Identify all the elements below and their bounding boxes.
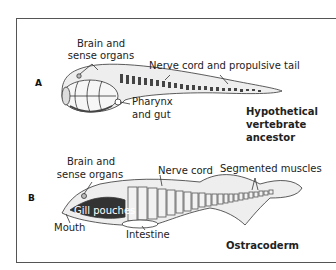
label-pharynx-line1: Pharynx	[132, 96, 173, 107]
label-intestine: Intestine	[126, 229, 170, 240]
caption-a-line2: vertebrate	[246, 119, 306, 130]
label-segmented-muscles: Segmented muscles	[220, 163, 322, 174]
label-brain-line1-b: Brain and	[60, 156, 122, 167]
ostracoderm-drawing	[62, 175, 302, 230]
label-pharynx-line2: and gut	[132, 109, 171, 120]
caption-b: Ostracoderm	[226, 240, 299, 251]
caption-a-line3: ancestor	[246, 132, 295, 143]
label-nerve-cord: Nerve cord	[158, 165, 213, 176]
panel-letter-a: A	[35, 78, 42, 88]
label-mouth: Mouth	[54, 222, 85, 233]
label-nerve-cord-tail: Nerve cord and propulsive tail	[149, 60, 300, 71]
label-brain-line2-a: sense organs	[64, 50, 138, 61]
label-gill-pouches: Gill pouches	[74, 205, 135, 216]
label-brain-line1-a: Brain and	[70, 38, 132, 49]
label-brain-line2-b: sense organs	[52, 169, 128, 180]
caption-a-line1: Hypothetical	[246, 106, 318, 117]
panel-letter-b: B	[28, 193, 35, 203]
